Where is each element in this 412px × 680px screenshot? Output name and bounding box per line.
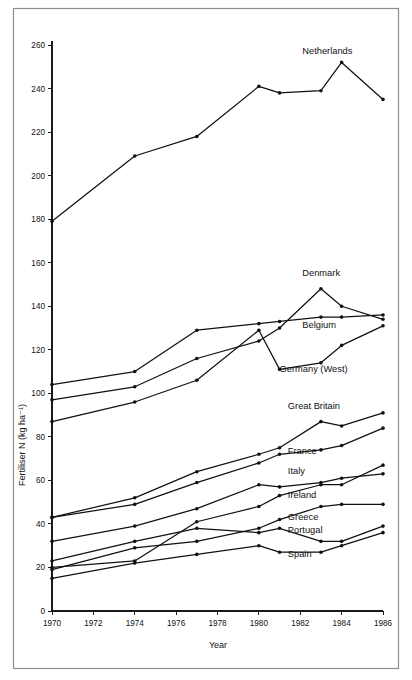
data-point-marker <box>381 317 385 321</box>
data-point-marker <box>340 483 344 487</box>
data-point-marker <box>257 328 261 332</box>
data-point-marker <box>278 326 282 330</box>
data-point-marker <box>381 524 385 528</box>
data-point-marker <box>278 485 282 489</box>
x-tick-label: 1980 <box>250 619 269 628</box>
y-tick-label: 120 <box>31 346 45 355</box>
data-point-marker <box>340 503 344 507</box>
series-label: France <box>288 446 317 456</box>
y-tick-label: 160 <box>31 259 45 268</box>
data-point-marker <box>195 507 199 511</box>
y-tick-label: 100 <box>31 389 45 398</box>
data-point-marker <box>278 446 282 450</box>
y-tick-label: 80 <box>36 433 46 442</box>
series-label: Denmark <box>302 268 340 278</box>
data-point-marker <box>340 476 344 480</box>
data-point-marker <box>195 357 199 361</box>
y-axis-title: Fertiliser N (kg ha⁻¹) <box>17 404 27 486</box>
data-point-marker <box>381 531 385 535</box>
y-tick-label: 200 <box>31 172 45 181</box>
data-point-marker <box>381 411 385 415</box>
data-point-marker <box>133 524 137 528</box>
figure-border <box>14 9 399 669</box>
series-label: Belgium <box>302 320 336 330</box>
y-tick-label: 140 <box>31 302 45 311</box>
y-tick-label: 20 <box>36 563 46 572</box>
data-point-marker <box>195 540 199 544</box>
data-point-marker <box>195 470 199 474</box>
x-tick-label: 1972 <box>84 619 103 628</box>
data-point-marker <box>381 324 385 328</box>
x-tick-label: 1976 <box>167 619 186 628</box>
data-point-marker <box>278 320 282 324</box>
y-tick-label: 60 <box>36 476 46 485</box>
data-point-marker <box>133 561 137 565</box>
x-tick-label: 1984 <box>333 619 352 628</box>
y-tick-label: 40 <box>36 520 46 529</box>
data-point-marker <box>195 481 199 485</box>
y-tick-label: 0 <box>40 607 45 616</box>
data-point-marker <box>257 505 261 509</box>
x-tick-label: 1986 <box>374 619 393 628</box>
data-point-marker <box>195 328 199 332</box>
data-point-marker <box>133 540 137 544</box>
data-point-marker <box>133 400 137 404</box>
series-label: Germany (West) <box>280 364 348 374</box>
data-point-marker <box>257 483 261 487</box>
data-point-marker <box>319 448 323 452</box>
data-point-marker <box>340 540 344 544</box>
data-point-marker <box>133 385 137 389</box>
data-point-marker <box>257 544 261 548</box>
data-point-marker <box>319 89 323 93</box>
data-point-marker <box>340 344 344 348</box>
data-point-marker <box>257 461 261 465</box>
data-point-marker <box>340 61 344 65</box>
data-point-marker <box>340 544 344 548</box>
data-point-marker <box>381 98 385 102</box>
data-point-marker <box>195 135 199 139</box>
data-point-marker <box>257 322 261 326</box>
data-point-marker <box>319 287 323 291</box>
series-label: Ireland <box>288 490 316 500</box>
data-point-marker <box>50 568 54 572</box>
data-point-marker <box>133 496 137 500</box>
data-point-marker <box>319 420 323 424</box>
series-label: Portugal <box>288 525 323 535</box>
fertiliser-nitrogen-line-chart: 020406080100120140160180200220240260 197… <box>0 0 412 680</box>
data-point-marker <box>195 520 199 524</box>
data-point-marker <box>278 494 282 498</box>
data-point-marker <box>50 559 54 563</box>
data-point-marker <box>278 518 282 522</box>
data-point-marker <box>195 378 199 382</box>
data-point-marker <box>278 91 282 95</box>
series-label: Great Britain <box>288 401 340 411</box>
series-label: Italy <box>288 466 305 476</box>
x-tick-label: 1974 <box>126 619 145 628</box>
data-point-marker <box>133 370 137 374</box>
data-point-marker <box>381 426 385 430</box>
data-point-marker <box>319 315 323 319</box>
data-point-marker <box>50 516 54 520</box>
data-point-marker <box>50 420 54 424</box>
x-tick-label: 1978 <box>208 619 227 628</box>
data-point-marker <box>381 472 385 476</box>
y-tick-label: 220 <box>31 128 45 137</box>
figure-root: 020406080100120140160180200220240260 197… <box>0 0 412 680</box>
data-point-marker <box>278 550 282 554</box>
data-point-marker <box>319 481 323 485</box>
data-point-marker <box>381 313 385 317</box>
series-label: Greece <box>288 512 319 522</box>
data-point-marker <box>50 398 54 402</box>
data-point-marker <box>257 531 261 535</box>
data-point-marker <box>319 550 323 554</box>
data-point-marker <box>319 540 323 544</box>
series-label: Netherlands <box>302 46 352 56</box>
data-point-marker <box>381 503 385 507</box>
series-label: Spain <box>288 549 312 559</box>
data-point-marker <box>257 452 261 456</box>
data-point-marker <box>340 444 344 448</box>
data-point-marker <box>133 546 137 550</box>
data-point-marker <box>340 424 344 428</box>
data-point-marker <box>133 154 137 158</box>
data-point-marker <box>319 505 323 509</box>
